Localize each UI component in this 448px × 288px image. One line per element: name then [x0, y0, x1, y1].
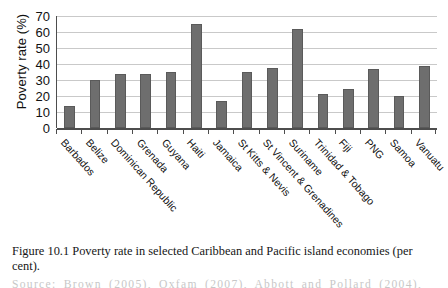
bar[interactable]: [216, 101, 227, 128]
bar-slot: [285, 16, 310, 128]
x-tick: [360, 129, 385, 134]
x-label-slot: Grenada: [132, 135, 157, 239]
x-label-slot: PNG: [360, 135, 385, 239]
bar[interactable]: [368, 69, 379, 128]
x-tick: [56, 129, 81, 134]
bar-slot: [158, 16, 183, 128]
figure-caption-label: Figure 10.1: [12, 244, 69, 258]
bar-slot: [336, 16, 361, 128]
x-category-label: Haiti: [185, 137, 207, 160]
y-tick-label: 20: [22, 90, 50, 103]
bar-series: [57, 16, 437, 128]
x-tick: [132, 129, 157, 134]
figure-caption-text: Poverty rate in selected Caribbean and P…: [12, 244, 413, 273]
x-tick: [411, 129, 436, 134]
bar[interactable]: [394, 96, 405, 128]
y-tick-label: 70: [22, 10, 50, 23]
bar-slot: [133, 16, 158, 128]
bar-slot: [57, 16, 82, 128]
bar-slot: [412, 16, 437, 128]
x-category-label: Vanuatu: [413, 137, 446, 173]
plot-area: [56, 16, 437, 128]
x-label-slot: Belize: [81, 135, 106, 239]
x-label-slot: Samoa: [385, 135, 410, 239]
x-tick: [183, 129, 208, 134]
y-tick-label: 60: [22, 26, 50, 39]
x-tick: [259, 129, 284, 134]
x-tick: [335, 129, 360, 134]
x-label-slot: St Kitts & Nevis: [233, 135, 258, 239]
bar[interactable]: [64, 106, 75, 128]
x-label-slot: Vanuatu: [411, 135, 436, 239]
bar-slot: [361, 16, 386, 128]
bar-slot: [310, 16, 335, 128]
bar[interactable]: [267, 68, 278, 128]
bar[interactable]: [166, 72, 177, 128]
bar-slot: [209, 16, 234, 128]
x-tick: [81, 129, 106, 134]
bar-slot: [234, 16, 259, 128]
x-axis-category-labels: BarbadosBelizeDominican RepublicGrenadaG…: [56, 135, 436, 239]
x-label-slot: St Vincent & Grenadines: [259, 135, 284, 239]
bar[interactable]: [419, 66, 430, 128]
x-category-label: PNG: [363, 137, 386, 161]
bar-slot: [386, 16, 411, 128]
bar[interactable]: [343, 89, 354, 128]
bar[interactable]: [318, 94, 329, 128]
figure-source-line: Source: Brown (2005), Oxfam (2007), Abbo…: [12, 278, 436, 288]
y-tick-label: 40: [22, 58, 50, 71]
poverty-rate-bar-chart: Poverty rate (%) 706050403020100 Barbado…: [0, 6, 442, 238]
x-label-slot: Fiji: [335, 135, 360, 239]
x-tick: [385, 129, 410, 134]
x-tick: [208, 129, 233, 134]
x-label-slot: Jamaica: [208, 135, 233, 239]
y-tick-label: 0: [22, 122, 50, 135]
bar[interactable]: [90, 80, 101, 128]
bar-slot: [184, 16, 209, 128]
x-label-slot: Haiti: [183, 135, 208, 239]
y-tick-label: 10: [22, 106, 50, 119]
bar[interactable]: [242, 72, 253, 128]
x-label-slot: Dominican Republic: [107, 135, 132, 239]
bar-slot: [260, 16, 285, 128]
figure-caption: Figure 10.1 Poverty rate in selected Car…: [12, 244, 432, 274]
x-tick: [233, 129, 258, 134]
x-axis-ticks: [56, 129, 436, 134]
bar[interactable]: [115, 74, 126, 128]
x-label-slot: Suriname: [284, 135, 309, 239]
x-tick: [107, 129, 132, 134]
y-tick-label: 30: [22, 74, 50, 87]
bar[interactable]: [140, 74, 151, 128]
x-tick: [309, 129, 334, 134]
x-tick: [284, 129, 309, 134]
y-tick-label: 50: [22, 42, 50, 55]
x-tick: [157, 129, 182, 134]
x-label-slot: Trinidad & Tobago: [309, 135, 334, 239]
x-label-slot: Guyana: [157, 135, 182, 239]
bar[interactable]: [191, 24, 202, 128]
x-category-label: Fiji: [337, 137, 354, 154]
x-label-slot: Barbados: [56, 135, 81, 239]
bar[interactable]: [292, 29, 303, 128]
bar-slot: [82, 16, 107, 128]
bar-slot: [108, 16, 133, 128]
y-axis-tick-labels: 706050403020100: [22, 16, 50, 128]
